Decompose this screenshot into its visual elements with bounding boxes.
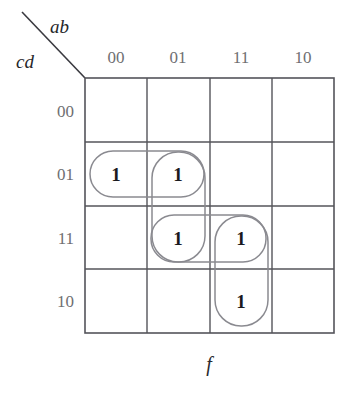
cell-value-r11-c01: 1 [168,229,188,248]
row-header-00: 00 [34,103,74,120]
karnaugh-map-figure: ab cd 00 01 11 10 00 01 11 10 1 1 1 1 1 … [0,0,353,408]
column-header-10: 10 [272,49,334,66]
row-header-11: 11 [34,230,74,247]
cell-value-r10-c11: 1 [231,292,251,311]
cell-value-r01-c01: 1 [168,165,188,184]
row-header-10: 10 [34,293,74,310]
axis-label-ab: ab [50,17,69,36]
column-header-11: 11 [210,49,272,66]
column-header-00: 00 [85,49,147,66]
column-header-01: 01 [147,49,209,66]
row-header-01: 01 [34,166,74,183]
cell-value-r01-c00: 1 [106,165,126,184]
axis-label-cd: cd [16,52,34,71]
cell-value-r11-c11: 1 [231,229,251,248]
function-label-f: f [194,354,224,374]
